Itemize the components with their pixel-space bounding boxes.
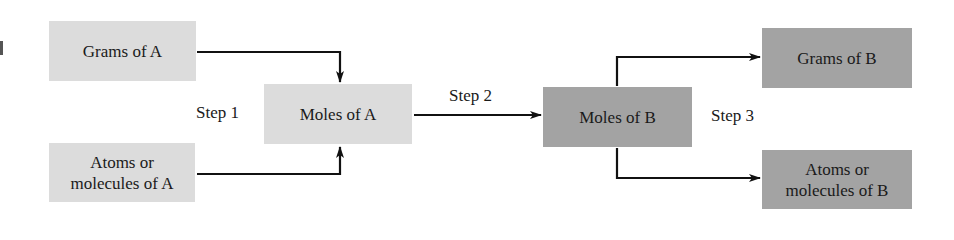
node-label: Grams of B — [797, 48, 876, 69]
node-label: Moles of B — [579, 107, 656, 128]
step-3-label: Step 3 — [711, 106, 754, 126]
node-grams-of-a: Grams of A — [49, 21, 196, 81]
node-label-line2: molecules of A — [71, 173, 174, 194]
node-label-line2: molecules of B — [786, 180, 889, 201]
node-label: Moles of A — [300, 104, 377, 125]
node-moles-of-b: Moles of B — [543, 87, 692, 147]
node-label-line1: Atoms or — [90, 152, 154, 173]
node-atoms-or-molecules-of-b: Atoms or molecules of B — [762, 150, 912, 209]
node-atoms-or-molecules-of-a: Atoms or molecules of A — [49, 143, 195, 202]
step-2-label: Step 2 — [449, 86, 492, 106]
step-1-label: Step 1 — [196, 103, 239, 123]
node-moles-of-a: Moles of A — [264, 84, 412, 144]
node-grams-of-b: Grams of B — [762, 28, 912, 88]
node-label: Grams of A — [83, 41, 162, 62]
node-label-line1: Atoms or — [805, 159, 869, 180]
